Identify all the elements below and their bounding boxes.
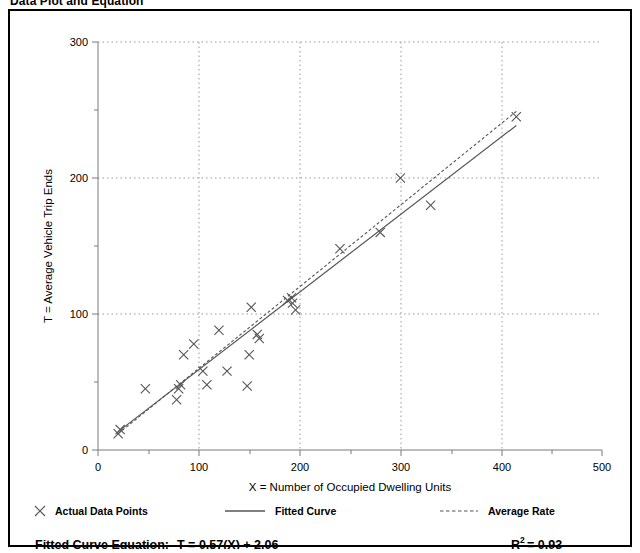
- x-tick-label-0: 0: [95, 461, 101, 473]
- x-tick-label-400: 400: [493, 461, 511, 473]
- data-point-marker: [255, 334, 264, 343]
- data-point-marker: [222, 367, 231, 376]
- data-point-marker: [179, 350, 188, 359]
- chart-svg: 0 100 200 300 T = Average Vehicle Trip E…: [10, 11, 634, 549]
- x-axis: 0 100 200 300 400 500 X = Number of Occu…: [95, 450, 611, 493]
- legend-item-actual-data-points: Actual Data Points: [35, 505, 148, 517]
- page-title: Data Plot and Equation: [10, 0, 144, 8]
- data-point-marker: [198, 367, 207, 376]
- r-squared-value: = 0.93: [527, 538, 562, 549]
- series-actual-data-points: [114, 112, 521, 438]
- y-axis-title: T = Average Vehicle Trip Ends: [42, 169, 54, 323]
- x-marker-icon: [35, 506, 45, 516]
- x-tick-label-200: 200: [291, 461, 309, 473]
- fitted-equation-value: T = 0.57(X) + 2.06: [177, 538, 278, 549]
- y-tick-label-100: 100: [70, 308, 88, 320]
- data-point-marker: [176, 380, 185, 389]
- data-point-marker: [243, 381, 252, 390]
- series-fitted-curve: [118, 126, 516, 432]
- y-tick-label-0: 0: [82, 444, 88, 456]
- data-point-marker: [247, 303, 256, 312]
- fitted-equation-label: Fitted Curve Equation:: [35, 538, 169, 549]
- data-point-marker: [426, 201, 435, 210]
- data-point-marker: [335, 244, 344, 253]
- x-axis-title: X = Number of Occupied Dwelling Units: [249, 481, 452, 493]
- data-point-marker: [172, 395, 181, 404]
- chart-plot: 0 100 200 300 T = Average Vehicle Trip E…: [10, 11, 634, 549]
- legend-item-average-rate: Average Rate: [440, 505, 555, 517]
- x-tick-label-300: 300: [392, 461, 410, 473]
- y-axis: 0 100 200 300 T = Average Vehicle Trip E…: [42, 36, 98, 456]
- fitted-curve-line: [118, 126, 516, 432]
- x-tick-label-100: 100: [190, 461, 208, 473]
- legend-label-actual-data-points: Actual Data Points: [55, 505, 148, 517]
- figure-frame: 0 100 200 300 T = Average Vehicle Trip E…: [8, 9, 632, 547]
- r-squared-base: R: [511, 538, 520, 549]
- data-point-marker: [189, 339, 198, 348]
- data-point-marker: [214, 326, 223, 335]
- data-point-marker: [396, 173, 405, 182]
- legend-label-average-rate: Average Rate: [488, 505, 555, 517]
- legend-label-fitted-curve: Fitted Curve: [275, 505, 336, 517]
- gridlines-horizontal: [98, 42, 602, 314]
- data-point-marker: [245, 350, 254, 359]
- equation-row: Fitted Curve Equation: T = 0.57(X) + 2.0…: [35, 535, 562, 549]
- y-tick-label-200: 200: [70, 172, 88, 184]
- chart-legend: Actual Data Points Fitted Curve Average …: [35, 505, 555, 517]
- legend-item-fitted-curve: Fitted Curve: [225, 505, 336, 517]
- data-point-marker: [512, 112, 521, 121]
- data-point-marker: [141, 384, 150, 393]
- r-squared-exponent: 2: [520, 535, 525, 545]
- x-tick-label-500: 500: [593, 461, 611, 473]
- data-point-marker: [202, 380, 211, 389]
- y-tick-label-300: 300: [70, 36, 88, 48]
